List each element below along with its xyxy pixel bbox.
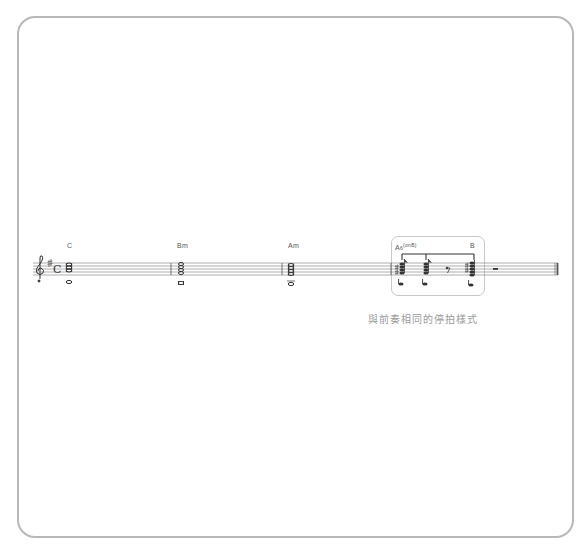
common-time-icon: C bbox=[53, 263, 61, 276]
measure-2-chord bbox=[178, 263, 184, 286]
tie-bracket bbox=[402, 254, 474, 260]
stop-beat-caption: 與前奏相同的停拍樣式 bbox=[368, 311, 478, 326]
measure-3-chord bbox=[287, 264, 295, 286]
stop-chord-3 bbox=[468, 260, 474, 287]
music-score: C Bm Am A6(onB) B C bbox=[0, 0, 588, 558]
staff-notation: C bbox=[0, 0, 588, 558]
half-rest-icon bbox=[493, 268, 498, 270]
measure-1-chord bbox=[66, 263, 72, 284]
accidental-sharps-b bbox=[465, 263, 469, 274]
staff-lines bbox=[33, 263, 558, 275]
